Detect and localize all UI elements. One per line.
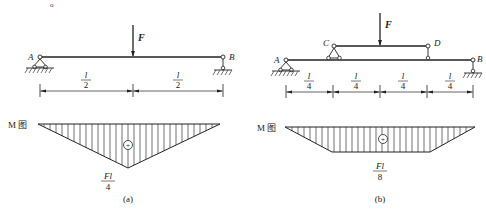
dimension-label: l 2 xyxy=(81,70,91,90)
moment-peak-label: Fl 8 xyxy=(373,161,387,182)
svg-text:4: 4 xyxy=(401,81,406,91)
load-label: F xyxy=(137,32,145,43)
dimension-label: l 4 xyxy=(398,71,408,91)
caption-a: (a) xyxy=(123,194,133,204)
node-label-a: A xyxy=(273,55,280,65)
dimension-label: l 2 xyxy=(173,70,183,90)
svg-text:+: + xyxy=(381,136,385,144)
node-label-a: A xyxy=(27,52,34,62)
svg-text:l: l xyxy=(402,71,405,81)
svg-text:4: 4 xyxy=(106,182,111,192)
dimension-label: l 4 xyxy=(304,71,314,91)
node-label-b: B xyxy=(477,54,483,64)
diagram-a: A B F l xyxy=(8,25,235,204)
link-support-icon xyxy=(426,44,430,60)
stray-mark: o xyxy=(50,1,54,9)
moment-diagram-title: M 图 xyxy=(8,120,27,130)
beam-figure: o A xyxy=(0,0,486,210)
node-label-d: D xyxy=(433,38,441,48)
moment-diagram-title: M 图 xyxy=(257,123,276,133)
node-label-b: B xyxy=(229,52,235,62)
svg-text:Fl: Fl xyxy=(103,171,112,181)
svg-text:l: l xyxy=(355,71,358,81)
load-label: F xyxy=(384,19,392,30)
svg-text:2: 2 xyxy=(84,80,89,90)
svg-text:4: 4 xyxy=(307,81,312,91)
svg-text:4: 4 xyxy=(448,81,453,91)
dimension-line xyxy=(40,84,223,97)
caption-b: (b) xyxy=(375,194,386,204)
svg-text:l: l xyxy=(449,71,452,81)
diagram-b: A C D B xyxy=(257,13,483,204)
svg-text:l: l xyxy=(85,70,88,80)
svg-text:Fl: Fl xyxy=(375,161,384,171)
dimension-line xyxy=(286,85,473,98)
dimension-label: l 4 xyxy=(445,71,455,91)
svg-text:2: 2 xyxy=(176,80,181,90)
svg-text:l: l xyxy=(177,70,180,80)
svg-text:8: 8 xyxy=(378,172,383,182)
node-label-c: C xyxy=(323,38,330,48)
svg-text:4: 4 xyxy=(354,81,359,91)
moment-peak-label: Fl 4 xyxy=(101,171,115,192)
svg-text:+: + xyxy=(126,142,130,150)
svg-text:l: l xyxy=(308,71,311,81)
dimension-label: l 4 xyxy=(351,71,361,91)
